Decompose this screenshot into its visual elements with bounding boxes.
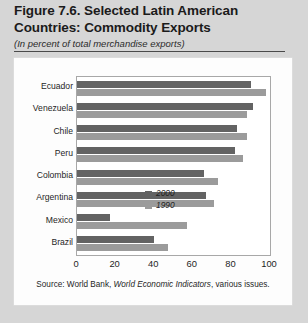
x-tick-label-0: 0 (73, 258, 78, 269)
bar-chile-2000 (77, 125, 237, 132)
x-tick-label-60: 60 (187, 258, 197, 269)
bar-peru-2000 (77, 147, 235, 154)
bar-group-ecuador: Ecuador (77, 77, 270, 99)
bar-mexico-2000 (77, 214, 110, 221)
bar-argentina-2000 (77, 192, 206, 199)
bar-colombia-2000 (77, 170, 204, 177)
title-divider (14, 51, 285, 52)
source-note: Source: World Bank, World Economic Indic… (14, 280, 292, 289)
bar-group-mexico: Mexico (77, 211, 270, 233)
bar-colombia-1990 (77, 178, 218, 185)
bar-mexico-1990 (77, 222, 187, 229)
category-label-peru: Peru (55, 146, 73, 160)
legend-label-1990: 1990 (156, 200, 175, 211)
source-publication: World Economic Indicators (114, 280, 211, 289)
legend-label-2000: 2000 (156, 188, 175, 199)
bar-group-venezuela: Venezuela (77, 99, 270, 121)
chart-card: EcuadorVenezuelaChilePeruColombiaArgenti… (14, 58, 292, 305)
bar-venezuela-1990 (77, 111, 247, 118)
bar-ecuador-1990 (77, 89, 266, 96)
source-prefix: Source: World Bank, (36, 280, 113, 289)
bar-group-peru: Peru (77, 144, 270, 166)
bar-group-chile: Chile (77, 122, 270, 144)
legend-swatch-1990 (145, 203, 152, 209)
bar-group-colombia: Colombia (77, 166, 270, 188)
legend-item-2000: 2000 (145, 188, 175, 199)
category-label-colombia: Colombia (37, 168, 73, 182)
page-title: Figure 7.6. Selected Latin American Coun… (14, 2, 294, 36)
chart-legend: 2000 1990 (145, 188, 175, 212)
figure-subtitle: (In percent of total merchandise exports… (14, 37, 294, 50)
source-suffix: , various issues. (211, 280, 270, 289)
category-label-ecuador: Ecuador (41, 79, 73, 93)
bar-peru-1990 (77, 155, 243, 162)
category-label-mexico: Mexico (46, 213, 73, 227)
category-label-venezuela: Venezuela (33, 101, 73, 115)
x-tick-label-20: 20 (109, 258, 119, 269)
bar-group-brazil: Brazil (77, 233, 270, 255)
bar-chile-1990 (77, 133, 247, 140)
x-axis: 020406080100 (76, 257, 271, 273)
category-label-chile: Chile (53, 124, 73, 138)
x-tick-label-80: 80 (225, 258, 235, 269)
bar-ecuador-2000 (77, 81, 251, 88)
figure-header: Figure 7.6. Selected Latin American Coun… (14, 2, 294, 50)
legend-swatch-2000 (145, 191, 152, 197)
category-label-brazil: Brazil (52, 235, 74, 249)
bar-brazil-1990 (77, 244, 168, 251)
category-label-argentina: Argentina (36, 190, 73, 204)
legend-item-1990: 1990 (145, 200, 175, 211)
plot-area: EcuadorVenezuelaChilePeruColombiaArgenti… (76, 76, 271, 256)
x-tick-label-40: 40 (148, 258, 158, 269)
bar-brazil-2000 (77, 236, 154, 243)
x-tick-label-100: 100 (261, 258, 277, 269)
bar-venezuela-2000 (77, 103, 253, 110)
